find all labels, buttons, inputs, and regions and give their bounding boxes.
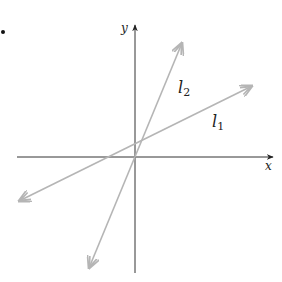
l1-label: l1 bbox=[212, 112, 224, 133]
bullet-dot bbox=[1, 30, 5, 34]
coordinate-diagram: y x l2 l1 bbox=[0, 0, 282, 282]
x-axis-label: x bbox=[265, 159, 272, 173]
y-axis-label: y bbox=[120, 21, 128, 35]
l2-label: l2 bbox=[178, 78, 190, 99]
